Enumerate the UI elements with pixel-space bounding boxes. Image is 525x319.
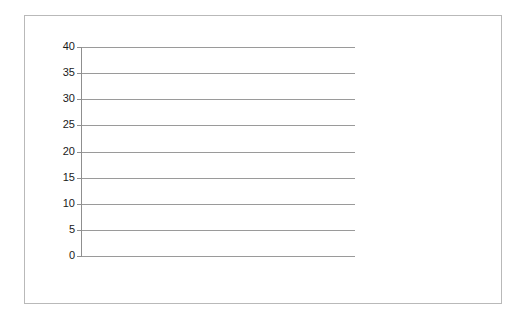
y-axis-labels: 4035302520151050 (49, 16, 75, 303)
y-tick-label-15: 15 (63, 172, 75, 183)
y-tick-label-10: 10 (63, 198, 75, 209)
series-lines (82, 47, 355, 256)
chart-frame: 4035302520151050 (24, 15, 502, 304)
y-tick-label-35: 35 (63, 67, 75, 78)
y-tick-label-20: 20 (63, 146, 75, 157)
plot-area (82, 47, 355, 256)
y-tick-label-30: 30 (63, 93, 75, 104)
y-tick-label-0: 0 (69, 250, 75, 261)
y-tick-label-5: 5 (69, 224, 75, 235)
y-tick-label-25: 25 (63, 119, 75, 130)
y-tick-label-40: 40 (63, 41, 75, 52)
gridline-0 (82, 256, 355, 257)
chart-figure: 4035302520151050 (0, 0, 525, 319)
